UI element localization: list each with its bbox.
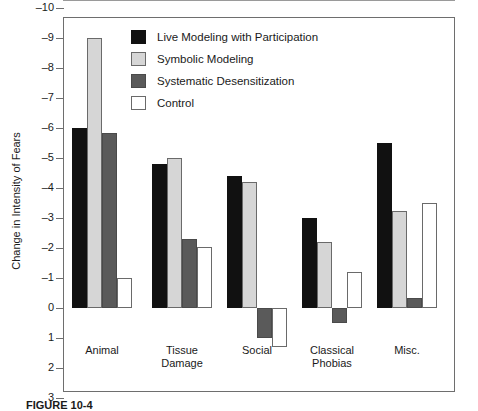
category-label-line: Misc.: [362, 344, 452, 357]
y-axis-tick-label: –2: [20, 242, 54, 253]
figure-container: Change in Intensity of Fears –10–9–8–7–6…: [0, 0, 478, 411]
y-axis-tick-label: –6: [20, 122, 54, 133]
y-axis-tick-label: –8: [20, 62, 54, 73]
y-axis-tick-label: 0: [20, 302, 54, 313]
figure-caption: FIGURE 10-4: [26, 399, 93, 411]
category-label: Animal: [57, 344, 147, 357]
bar: [332, 308, 347, 323]
y-axis-tick-labels: –10–9–8–7–6–5–4–3–2–10123: [14, 0, 54, 411]
legend-swatch-icon: [131, 52, 146, 66]
legend-item-label: Live Modeling with Participation: [157, 31, 318, 43]
y-axis-tick: [56, 368, 64, 369]
legend-item: Symbolic Modeling: [131, 49, 391, 69]
bar: [72, 128, 87, 308]
y-axis-tick: [56, 308, 64, 309]
y-axis-tick-label: –4: [20, 182, 54, 193]
category-label-line: Phobias: [287, 357, 377, 370]
legend-swatch-icon: [131, 96, 146, 110]
legend-item: Systematic Desensitization: [131, 71, 391, 91]
bar: [167, 158, 182, 308]
category-label: Misc.: [362, 344, 452, 357]
category-label-line: Damage: [137, 357, 227, 370]
bar: [272, 308, 287, 347]
bar: [377, 143, 392, 308]
bar: [87, 38, 102, 308]
bar: [257, 308, 272, 338]
y-axis-tick-label: –10: [20, 2, 54, 13]
y-axis-tick-label: –3: [20, 212, 54, 223]
zero-baseline: [63, 0, 455, 1]
y-axis-tick: [56, 338, 64, 339]
bar: [302, 218, 317, 308]
y-axis-tick-label: –1: [20, 272, 54, 283]
bar: [117, 278, 132, 308]
y-axis-tick: [56, 98, 64, 99]
bar: [182, 239, 197, 308]
y-axis-tick: [56, 68, 64, 69]
y-axis-tick: [56, 8, 64, 9]
chart-legend: Live Modeling with ParticipationSymbolic…: [131, 27, 391, 115]
bar: [242, 182, 257, 308]
bar: [422, 203, 437, 308]
y-axis-tick: [56, 248, 64, 249]
legend-item: Control: [131, 93, 391, 113]
legend-item: Live Modeling with Participation: [131, 27, 391, 47]
y-axis-line: [63, 17, 64, 392]
category-label-line: Animal: [57, 344, 147, 357]
legend-swatch-icon: [131, 74, 146, 88]
y-axis-tick-label: –7: [20, 92, 54, 103]
bar: [407, 298, 422, 309]
bar: [197, 247, 212, 309]
y-axis-tick: [56, 38, 64, 39]
legend-item-label: Symbolic Modeling: [157, 53, 254, 65]
legend-item-label: Control: [157, 97, 194, 109]
y-axis-tick: [56, 158, 64, 159]
bar: [347, 272, 362, 308]
bar: [227, 176, 242, 308]
y-axis-tick: [56, 218, 64, 219]
bar: [317, 242, 332, 308]
y-axis-tick: [56, 278, 64, 279]
y-axis-tick-label: –9: [20, 32, 54, 43]
y-axis-tick: [56, 188, 64, 189]
y-axis-tick-label: 2: [20, 362, 54, 373]
bar: [152, 164, 167, 308]
bar: [102, 133, 117, 309]
y-axis-tick: [56, 128, 64, 129]
bar: [392, 211, 407, 309]
legend-swatch-icon: [131, 30, 146, 44]
y-axis-tick-label: 1: [20, 332, 54, 343]
y-axis-tick-label: –5: [20, 152, 54, 163]
legend-item-label: Systematic Desensitization: [157, 75, 294, 87]
